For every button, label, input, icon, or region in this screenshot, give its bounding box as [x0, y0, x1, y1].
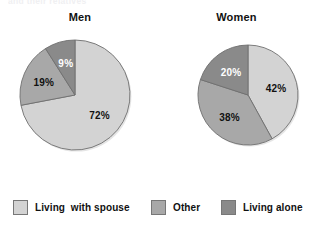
panel-title-men: Men — [0, 11, 160, 23]
pie-slice-label-living-alone: 20% — [221, 66, 242, 77]
legend-item-living-alone: Living alone — [221, 196, 303, 218]
legend-label-living-alone: Living alone — [243, 202, 303, 213]
legend: Living with spouse Other Living alone — [0, 196, 313, 220]
legend-label-living-with-spouse: Living with spouse — [35, 202, 130, 213]
pie-men: 72%19%9% — [18, 38, 132, 152]
legend-label-other: Other — [173, 202, 200, 213]
pie-chart-figure: and their relatives Men 72%19%9% Women 4… — [0, 0, 313, 235]
legend-swatch-icon-other — [151, 200, 166, 215]
pie-men-svg — [18, 38, 132, 152]
pie-slice-label-living-with-spouse: 42% — [266, 82, 287, 93]
pie-slice-label-living-with-spouse: 72% — [89, 110, 110, 121]
pie-slice-label-living-alone: 9% — [58, 58, 73, 69]
pie-women-svg — [196, 43, 300, 147]
panel-title-women: Women — [160, 11, 313, 23]
legend-item-living-with-spouse: Living with spouse — [13, 196, 130, 218]
cropped-title-remnant: and their relatives — [8, 0, 238, 5]
legend-item-other: Other — [151, 196, 200, 218]
pie-women: 42%38%20% — [196, 43, 300, 147]
pie-slice-label-other: 19% — [33, 76, 54, 87]
pie-slice-label-other: 38% — [219, 112, 240, 123]
legend-swatch-icon-living-alone — [221, 200, 236, 215]
legend-swatch-icon-living-with-spouse — [13, 200, 28, 215]
